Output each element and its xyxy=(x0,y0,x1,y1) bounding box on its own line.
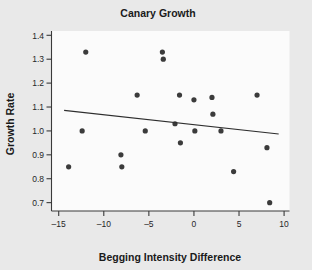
x-axis-title: Begging Intensity Difference xyxy=(99,251,242,263)
data-point xyxy=(80,128,85,133)
x-tick-label: –10 xyxy=(97,219,111,229)
data-point xyxy=(192,128,197,133)
data-point xyxy=(177,92,182,97)
x-tick-label: –15 xyxy=(52,219,66,229)
data-point xyxy=(267,200,272,205)
x-tick-label: 5 xyxy=(237,219,242,229)
data-point xyxy=(254,92,259,97)
x-tick-label: 0 xyxy=(192,219,197,229)
y-tick-label: 1.2 xyxy=(32,78,44,88)
x-tick-label: –5 xyxy=(144,219,154,229)
canary-growth-scatter-chart: Canary Growth 0.70.80.91.01.11.21.31.4 –… xyxy=(0,0,312,270)
data-point xyxy=(218,128,223,133)
data-point xyxy=(143,128,148,133)
data-point xyxy=(178,140,183,145)
data-point xyxy=(135,92,140,97)
y-tick-label: 0.8 xyxy=(32,174,44,184)
data-point xyxy=(118,152,123,157)
y-tick-label: 1.0 xyxy=(32,126,44,136)
data-point xyxy=(161,57,166,62)
y-tick-label: 1.3 xyxy=(32,54,44,64)
plot-area-background xyxy=(52,31,290,211)
data-point xyxy=(119,164,124,169)
data-point xyxy=(210,112,215,117)
data-point xyxy=(191,97,196,102)
y-axis-title: Growth Rate xyxy=(4,93,16,156)
data-point xyxy=(160,49,165,54)
chart-screenshot: Canary Growth 0.70.80.91.01.11.21.31.4 –… xyxy=(0,0,312,270)
x-tick-label: 10 xyxy=(279,219,289,229)
data-point xyxy=(231,169,236,174)
y-tick-label: 1.4 xyxy=(32,31,44,41)
data-point xyxy=(66,164,71,169)
chart-title: Canary Growth xyxy=(120,7,195,19)
data-point xyxy=(209,95,214,100)
data-point xyxy=(83,49,88,54)
data-point xyxy=(264,145,269,150)
y-tick-label: 0.7 xyxy=(32,198,44,208)
y-tick-label: 0.9 xyxy=(32,150,44,160)
y-tick-label: 1.1 xyxy=(32,102,44,112)
